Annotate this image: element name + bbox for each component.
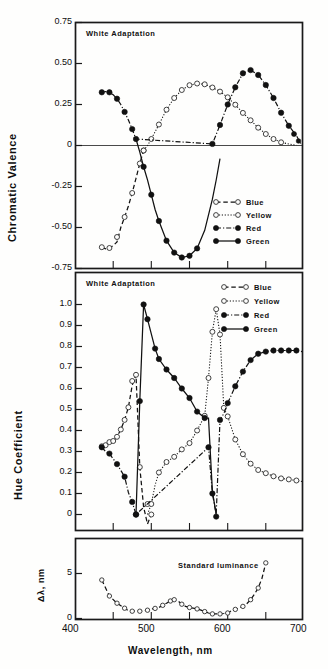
mid-ytick-10: 0: [38, 508, 72, 518]
mid-ytick-0: 1.0: [38, 298, 72, 308]
mid-ytick-4: 0.6: [38, 382, 72, 392]
top-panel-xticks: [113, 261, 266, 269]
mid-legend-label-red: Red: [254, 311, 269, 320]
mid-legend-label-green: Green: [254, 325, 278, 334]
top-panel-annotation: White Adaptation: [86, 29, 155, 38]
bottom-panel-xticks: [113, 612, 266, 620]
xtick-700: 700: [290, 623, 307, 634]
mid-legend-label-yellow: Yellow: [254, 297, 280, 306]
middle-series-green: [133, 302, 216, 517]
middle-series-blue: [99, 372, 154, 524]
mid-ytick-8: 0.2: [38, 466, 72, 476]
x-axis-title: Wavelength, nm: [128, 645, 213, 656]
top-ytick-2: 0.25: [28, 98, 72, 108]
xtick-400: 400: [62, 623, 79, 634]
bot-ytick-1: 0: [52, 612, 72, 622]
middle-panel-legend: [221, 285, 248, 332]
top-legend-label-red: Red: [246, 224, 261, 233]
chromatic-valence-hue-coefficient-figure: Chromatic Valence Hue Coefficient Δλ, nm…: [0, 0, 328, 669]
mid-ytick-7: 0.3: [38, 445, 72, 455]
mid-ytick-3: 0.7: [38, 361, 72, 371]
top-panel-frame: [76, 23, 303, 269]
middle-panel-xticks: [113, 523, 266, 531]
mid-ytick-5: 0.5: [38, 403, 72, 413]
middle-panel-yticks: [76, 305, 83, 515]
top-legend-label-green: Green: [246, 237, 270, 246]
mid-ytick-9: 0.1: [38, 487, 72, 497]
top-ytick-6: -0.75: [24, 262, 72, 272]
mid-ytick-1: 0.9: [38, 319, 72, 329]
mid-ytick-6: 0.4: [38, 424, 72, 434]
xtick-500: 500: [138, 623, 155, 634]
middle-panel-annotation: White Adaptation: [86, 279, 155, 288]
bottom-panel-annotation: Standard luminance: [178, 561, 259, 570]
top-ytick-4: -0.25: [24, 180, 72, 190]
top-legend-label-yellow: Yellow: [246, 211, 272, 220]
top-ytick-5: -0.50: [24, 221, 72, 231]
top-series-red: [99, 67, 302, 146]
top-ytick-3: 0: [28, 139, 72, 149]
bottom-panel-frame: [76, 539, 303, 620]
top-series-green: [133, 136, 220, 260]
top-series-blue: [99, 148, 146, 251]
top-panel-yticks: [76, 23, 83, 269]
mid-legend-label-blue: Blue: [254, 283, 272, 292]
top-legend-label-blue: Blue: [246, 198, 264, 207]
top-ytick-0: 0.75: [28, 16, 72, 26]
bot-ytick-0: 5: [52, 567, 72, 577]
top-panel-legend: [213, 200, 240, 244]
middle-series-red: [99, 348, 302, 520]
mid-ytick-2: 0.8: [38, 340, 72, 350]
top-series-yellow: [141, 81, 296, 153]
bottom-panel-yticks: [76, 574, 83, 619]
top-ytick-1: 0.50: [28, 57, 72, 67]
xtick-600: 600: [214, 623, 231, 634]
